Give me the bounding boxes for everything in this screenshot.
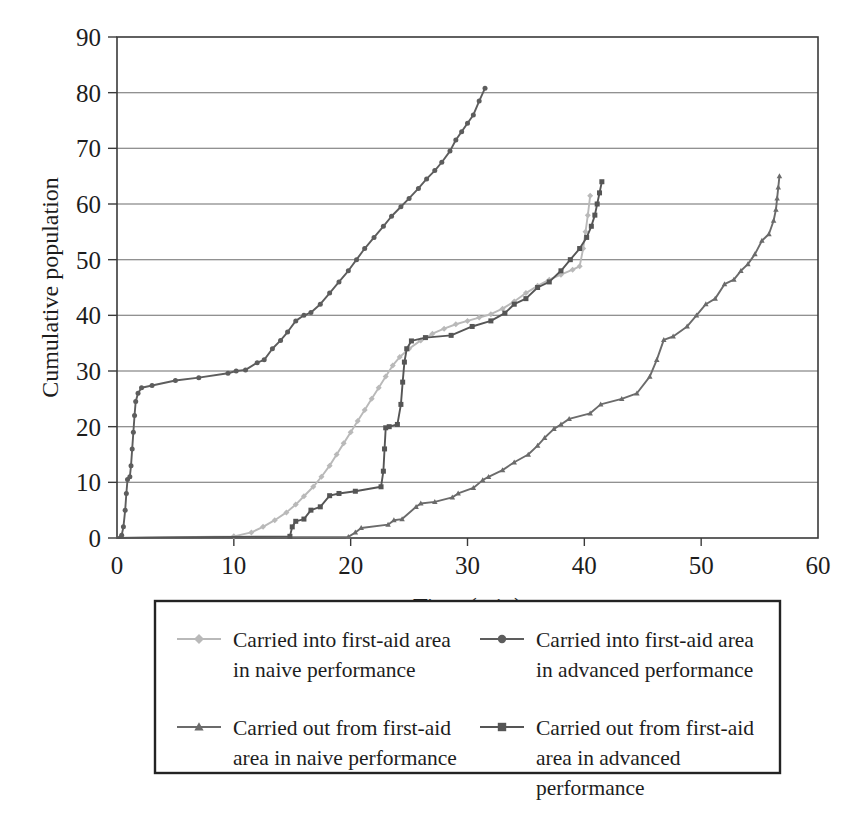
x-tick-label-20: 20 bbox=[338, 552, 363, 579]
y-tick-label-90: 90 bbox=[76, 24, 101, 51]
x-tick-label-10: 10 bbox=[221, 552, 246, 579]
series-line-2 bbox=[117, 176, 779, 538]
series-line-0 bbox=[117, 196, 590, 538]
legend-label-1-line-0: Carried into first-aid area bbox=[536, 628, 754, 652]
legend-label-2-line-1: area in naive performance bbox=[233, 746, 457, 770]
y-tick-label-80: 80 bbox=[76, 80, 101, 107]
x-axis-ticks: 0102030405060 bbox=[111, 538, 831, 579]
series-line-1 bbox=[117, 88, 485, 538]
y-axis-title: Cumulative population bbox=[37, 177, 63, 398]
legend-label-3-line-2: performance bbox=[536, 776, 645, 800]
x-tick-label-60: 60 bbox=[806, 552, 831, 579]
x-tick-label-0: 0 bbox=[111, 552, 124, 579]
y-tick-label-60: 60 bbox=[76, 191, 101, 218]
legend-label-0-line-0: Carried into first-aid area bbox=[233, 628, 451, 652]
plot-frame bbox=[117, 37, 818, 538]
series-0 bbox=[117, 193, 593, 540]
series-1 bbox=[117, 86, 488, 538]
y-tick-label-0: 0 bbox=[89, 525, 102, 552]
legend-label-3-line-1: area in advanced bbox=[536, 746, 681, 770]
y-axis-ticks: 0102030405060708090 bbox=[76, 24, 117, 552]
data-series bbox=[117, 86, 782, 540]
x-tick-label-50: 50 bbox=[689, 552, 714, 579]
y-tick-label-70: 70 bbox=[76, 135, 101, 162]
x-tick-label-30: 30 bbox=[455, 552, 480, 579]
y-tick-label-50: 50 bbox=[76, 247, 101, 274]
y-tick-label-30: 30 bbox=[76, 358, 101, 385]
y-tick-label-40: 40 bbox=[76, 302, 101, 329]
legend-label-1-line-1: in advanced performance bbox=[536, 658, 753, 682]
series-line-3 bbox=[117, 182, 602, 538]
y-tick-label-20: 20 bbox=[76, 414, 101, 441]
series-3 bbox=[117, 179, 604, 539]
figure-container: 0102030405060708090 0102030405060 Time (… bbox=[0, 0, 865, 820]
series-2 bbox=[117, 173, 782, 539]
y-tick-label-10: 10 bbox=[76, 469, 101, 496]
legend-label-2-line-0: Carried out from first-aid bbox=[233, 716, 451, 740]
gridlines bbox=[117, 93, 818, 483]
legend-label-3-line-0: Carried out from first-aid bbox=[536, 716, 754, 740]
cumulative-population-chart: 0102030405060708090 0102030405060 Time (… bbox=[0, 0, 865, 820]
x-tick-label-40: 40 bbox=[572, 552, 597, 579]
chart-legend: Carried into first-aid areain naive perf… bbox=[155, 601, 780, 800]
legend-label-0-line-1: in naive performance bbox=[233, 658, 416, 682]
